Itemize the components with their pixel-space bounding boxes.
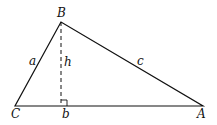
triangle: [15, 22, 203, 106]
side-label-b: b: [62, 107, 70, 121]
vertex-label-b: B: [56, 6, 66, 20]
right-angle-marker: [61, 100, 67, 106]
diagram-canvas: B C A a h c b: [0, 0, 217, 125]
side-label-c: c: [137, 54, 144, 68]
vertex-label-c: C: [11, 107, 20, 121]
vertex-label-a: A: [196, 107, 206, 121]
side-label-a: a: [29, 54, 36, 68]
altitude-label-h: h: [64, 55, 72, 69]
triangle-diagram: B C A a h c b: [0, 0, 217, 125]
